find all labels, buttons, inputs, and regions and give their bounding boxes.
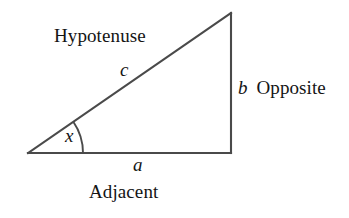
hypotenuse-label: Hypotenuse <box>54 26 146 45</box>
angle-x-label: x <box>65 126 73 145</box>
opposite-label-group: bOpposite <box>238 78 326 97</box>
side-c-label: c <box>120 60 128 79</box>
opposite-label: Opposite <box>257 77 326 98</box>
triangle-diagram: Hypotenuse c bOpposite x a Adjacent <box>0 0 349 218</box>
adjacent-label: Adjacent <box>89 182 158 201</box>
side-b-label: b <box>238 77 248 98</box>
side-a-label: a <box>133 155 143 174</box>
triangle-graphic <box>0 0 349 218</box>
angle-arc <box>73 122 83 153</box>
